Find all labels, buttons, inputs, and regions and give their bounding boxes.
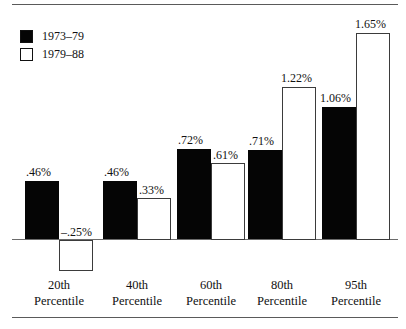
category-label-60th: 60th Percentile [171,277,251,309]
bar-chart-figure: 1973–79 1979–88 .46% –.25% .46% .33% .72… [0,0,406,329]
category-label-40th-line1: 40th [97,277,177,293]
category-label-20th: 20th Percentile [19,277,99,309]
category-label-80th-line2: Percentile [242,293,322,309]
category-label-95th-line2: Percentile [316,293,396,309]
bar-95th-1973-79 [322,107,356,239]
bar-value-95th-1979-88: 1.65% [355,18,386,30]
bar-value-20th-1973-79: .46% [26,166,51,178]
bar-60th-1979-88 [211,163,245,240]
bar-20th-1973-79 [25,181,59,239]
category-label-60th-line2: Percentile [171,293,251,309]
bar-95th-1979-88 [356,33,390,240]
category-label-60th-line1: 60th [171,277,251,293]
category-label-95th-line1: 95th [316,277,396,293]
bar-value-80th-1979-88: 1.22% [281,72,312,84]
category-label-40th-line2: Percentile [97,293,177,309]
category-label-20th-line2: Percentile [19,293,99,309]
category-label-20th-line1: 20th [19,277,99,293]
category-label-80th: 80th Percentile [242,277,322,309]
bar-value-60th-1973-79: .72% [178,134,203,146]
category-label-95th: 95th Percentile [316,277,396,309]
bar-80th-1979-88 [282,87,316,240]
bar-value-40th-1973-79: .46% [104,166,129,178]
bar-60th-1973-79 [177,149,211,239]
bar-value-95th-1973-79: 1.06% [320,92,351,104]
bar-value-40th-1979-88: .33% [139,184,164,196]
bar-40th-1979-88 [137,198,171,240]
bar-20th-1979-88 [59,240,93,271]
category-label-40th: 40th Percentile [97,277,177,309]
bar-value-20th-1979-88: –.25% [61,226,92,238]
bar-value-80th-1973-79: .71% [249,135,274,147]
category-label-80th-line1: 80th [242,277,322,293]
bar-40th-1973-79 [103,181,137,239]
bar-80th-1973-79 [248,150,282,239]
bar-value-60th-1979-88: .61% [213,149,238,161]
